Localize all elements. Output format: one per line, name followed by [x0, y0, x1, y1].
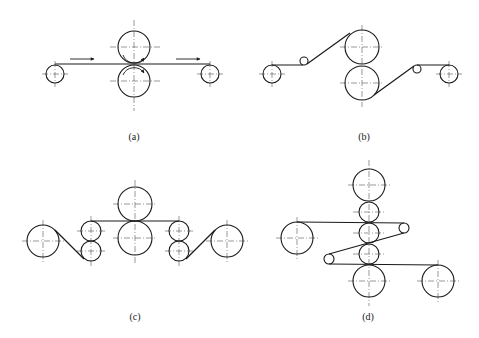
- take-up-roll: [422, 265, 454, 297]
- panel-b: [259, 25, 462, 107]
- panel-a: [42, 20, 223, 111]
- panel-label-c: (c): [129, 312, 140, 322]
- rolling-mill-diagram: (a) (b) (c) (d): [0, 0, 479, 338]
- idler-left: [300, 57, 308, 65]
- diagram-svg: [0, 0, 479, 338]
- panel-c: [22, 180, 248, 266]
- idler-left: [324, 254, 334, 264]
- take-up-roll: [211, 225, 243, 257]
- idler-right: [413, 65, 421, 73]
- idler-right: [399, 223, 409, 233]
- panel-d: [276, 160, 459, 306]
- panel-label-b: (b): [358, 132, 370, 142]
- pay-off-roll: [27, 225, 59, 257]
- rotation-arrow-icon: [123, 68, 144, 75]
- panel-label-d: (d): [362, 312, 374, 322]
- pay-off-roll: [281, 222, 313, 254]
- strip: [297, 222, 438, 265]
- panel-label-a: (a): [128, 132, 139, 142]
